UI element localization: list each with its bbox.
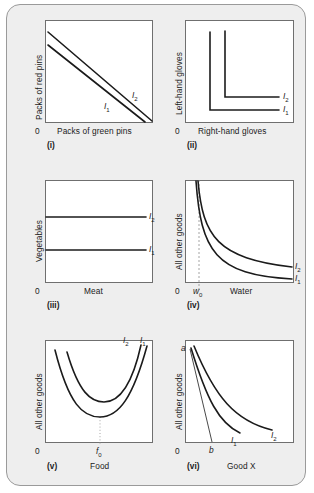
y-axis-label-vi: All other goods [174,373,184,430]
origin-label-vi: 0 [175,446,180,456]
curve-label-vi-I1: I1 [231,435,237,447]
point-label-a: a [181,343,186,353]
figure-card: I1 I2 Packs of red pins 0 Packs of green… [6,4,306,486]
curve-vi-I1 [191,348,240,433]
panel-number-vi: (vi) [187,461,199,471]
curve-label-vi-I2: I2 [271,430,277,442]
x-axis-label-vi: Good X [227,461,256,471]
point-label-b: b [209,445,214,455]
curves-vi [7,5,306,486]
